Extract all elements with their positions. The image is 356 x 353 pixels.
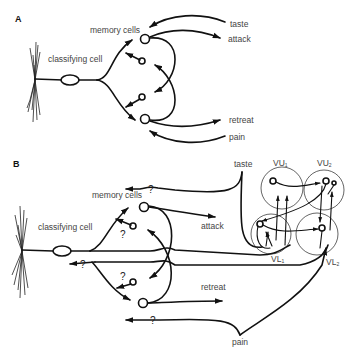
ganglia-connections: [257, 182, 334, 248]
memory-cells-label: memory cells: [92, 190, 142, 200]
classifying-cell-body: [53, 246, 71, 256]
interneuron-upper: [130, 223, 136, 229]
svg-text:VL2: VL2: [326, 257, 339, 267]
interneuron-upper: [139, 58, 145, 64]
pain-label: pain: [229, 132, 245, 142]
memory-cells-label: memory cells: [90, 25, 140, 35]
classifying-cell-body: [61, 75, 79, 85]
unknown-marker: ?: [148, 184, 154, 195]
pain-label: pain: [232, 337, 248, 347]
unknown-marker: ?: [120, 229, 126, 240]
retreat-label: retreat: [201, 282, 226, 292]
svg-text:VU2: VU2: [317, 158, 332, 168]
unknown-marker: ?: [80, 259, 86, 270]
neural-circuit-diagram: A classifying cell memory cells taste: [0, 0, 356, 353]
unknown-marker: ?: [120, 271, 126, 282]
taste-label: taste: [234, 159, 253, 169]
attack-label: attack: [201, 221, 224, 231]
sensory-neuron-icon: [12, 206, 28, 298]
svg-text:VU1: VU1: [273, 158, 288, 168]
taste-label: taste: [230, 19, 249, 29]
panel-b-label: B: [13, 159, 20, 169]
retreat-label: retreat: [229, 115, 254, 125]
ganglion-vu1: VU1: [261, 158, 303, 209]
attack-label: attack: [228, 34, 251, 44]
sensory-neuron-icon: [27, 42, 40, 122]
svg-text:VL1: VL1: [271, 254, 284, 264]
panel-b: B classifying cell memory cells ? ? ?: [12, 158, 344, 347]
panel-a-label: A: [15, 14, 22, 24]
classifying-cell-label: classifying cell: [48, 54, 102, 64]
memory-cell-lower: [139, 299, 148, 308]
classifying-cell-label: classifying cell: [38, 222, 92, 232]
memory-cell-upper: [140, 203, 149, 212]
unknown-marker: ?: [150, 315, 156, 326]
panel-a: A classifying cell memory cells taste: [15, 14, 254, 142]
memory-cell-lower: [141, 115, 150, 124]
memory-cell-upper: [141, 35, 150, 44]
